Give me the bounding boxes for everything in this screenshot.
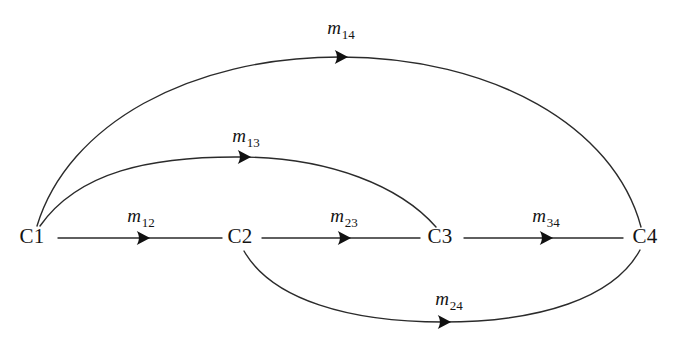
edge-label-base-m13: m	[232, 125, 246, 146]
edges-layer	[37, 57, 641, 322]
edge-label-sub-m23: 23	[345, 215, 358, 230]
causal-chain-diagram: m12m23m34m13m14m24 C1C2C3C4	[0, 0, 678, 354]
edge-m13	[40, 157, 436, 227]
edge-labels-layer: m12m23m34m13m14m24	[127, 17, 560, 313]
edge-m24	[244, 250, 640, 322]
edge-label-sub-m13: 13	[247, 135, 260, 150]
edge-label-base-m23: m	[330, 205, 344, 226]
edge-label-m13: m13	[232, 125, 260, 150]
edge-label-sub-m12: 12	[142, 215, 155, 230]
node-C2: C2	[228, 224, 253, 248]
edge-label-base-m34: m	[532, 205, 546, 226]
edge-label-m14: m14	[327, 17, 355, 42]
edge-label-sub-m34: 34	[547, 215, 561, 230]
node-C3: C3	[428, 224, 453, 248]
edge-label-m24: m24	[435, 288, 463, 313]
edge-label-m34: m34	[532, 205, 560, 230]
diagram-canvas: m12m23m34m13m14m24 C1C2C3C4	[0, 0, 678, 354]
edge-label-base-m12: m	[127, 205, 141, 226]
edge-label-sub-m24: 24	[450, 298, 464, 313]
edge-label-base-m14: m	[327, 17, 341, 38]
arrowheads-layer	[137, 50, 553, 329]
edge-label-sub-m14: 14	[342, 27, 356, 42]
edge-label-base-m24: m	[435, 288, 449, 309]
edge-label-m12: m12	[127, 205, 155, 230]
node-C1: C1	[20, 224, 45, 248]
edge-m14	[37, 57, 641, 227]
node-C4: C4	[633, 224, 658, 248]
edge-label-m23: m23	[330, 205, 358, 230]
